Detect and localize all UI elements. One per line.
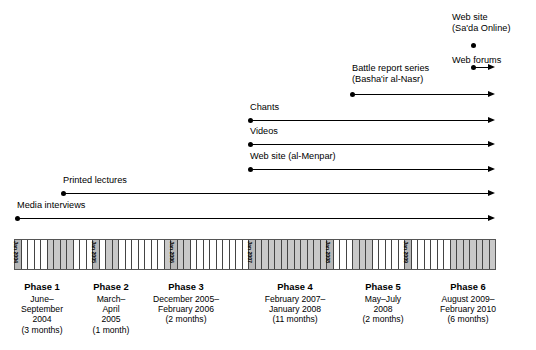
- track-arrowhead: [488, 117, 495, 123]
- track-label: Battle report series(Basha'ir al-Nasr): [352, 63, 429, 84]
- track-label-line: Videos: [250, 126, 278, 137]
- track-label-line: Battle report series: [352, 63, 429, 74]
- phase-duration: (1 month): [56, 325, 166, 335]
- phase-name: Phase 3: [131, 281, 241, 294]
- track-line: [473, 67, 488, 68]
- track-arrowhead: [488, 91, 495, 97]
- track-label-line: (Basha'ir al-Nasr): [352, 74, 429, 85]
- year-tick-label: Jan 2007: [246, 241, 251, 263]
- phase-duration: (2 months): [131, 314, 241, 324]
- track-line: [250, 144, 488, 145]
- year-tick-label: Jan 2004: [12, 241, 17, 263]
- track-label: Web site(Sa'da Online): [452, 12, 510, 33]
- track-arrowhead: [488, 215, 495, 221]
- year-tick-label: Jan 2008: [324, 241, 329, 263]
- track-label: Media interviews: [17, 200, 85, 211]
- year-tick-label: Jan 2006: [168, 241, 173, 263]
- track-label-line: Media interviews: [17, 200, 85, 211]
- track-label-line: Web site (al-Menpar): [250, 151, 336, 162]
- phase-caption: Phase 6August 2009–February 2010(6 month…: [413, 281, 523, 325]
- track-label: Chants: [250, 102, 279, 113]
- track-label: Web site (al-Menpar): [250, 151, 336, 162]
- track-label-line: Web site: [452, 12, 510, 23]
- phase-date-line: February 2010: [413, 304, 523, 314]
- track-label-line: (Sa'da Online): [452, 23, 510, 34]
- phase-date-line: December 2005–: [131, 294, 241, 304]
- track-label: Videos: [250, 126, 278, 137]
- track-label: Printed lectures: [63, 175, 127, 186]
- track-line: [17, 218, 488, 219]
- month-axis-bar: Jan 2004Jan 2005Jan 2006Jan 2007Jan 2008…: [14, 239, 496, 270]
- phase-caption: Phase 3December 2005–February 2006(2 mon…: [131, 281, 241, 325]
- phase-name: Phase 6: [413, 281, 523, 294]
- track-line: [250, 120, 488, 121]
- phase-date-line: February 2006: [131, 304, 241, 314]
- year-tick-label: Jan 2005: [90, 241, 95, 263]
- track-arrowhead: [488, 190, 495, 196]
- track-line: [250, 169, 488, 170]
- track-arrowhead: [488, 141, 495, 147]
- year-tick-label: Jan 2009: [402, 241, 407, 263]
- phase-date-line: August 2009–: [413, 294, 523, 304]
- track-label-line: Printed lectures: [63, 175, 127, 186]
- track-arrowhead: [488, 64, 495, 70]
- track-line: [63, 193, 488, 194]
- track-line: [352, 94, 488, 95]
- phase-duration: (6 months): [413, 314, 523, 324]
- track-start-dot: [471, 43, 476, 48]
- track-label-line: Chants: [250, 102, 279, 113]
- track-arrowhead: [488, 166, 495, 172]
- month-cell: [490, 240, 496, 269]
